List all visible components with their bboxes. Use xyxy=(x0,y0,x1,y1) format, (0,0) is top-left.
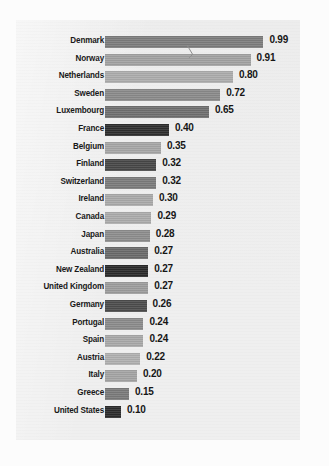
value-label: 0.27 xyxy=(154,263,173,275)
bar xyxy=(105,54,251,66)
chart-row: Italy0.20 xyxy=(16,370,300,382)
value-label: 0.22 xyxy=(146,351,165,363)
value-label: 0.10 xyxy=(127,404,146,416)
category-label: Canada xyxy=(0,210,104,222)
category-label: Greece xyxy=(0,386,104,398)
chart-row: France0.40 xyxy=(16,124,300,136)
category-label: Netherlands xyxy=(0,69,104,81)
chart-row: Portugal0.24 xyxy=(16,318,300,330)
bar xyxy=(105,36,263,48)
value-label: 0.20 xyxy=(143,368,162,380)
bar xyxy=(105,318,143,330)
category-label: New Zealand xyxy=(0,263,104,275)
value-label: 0.65 xyxy=(215,104,234,116)
value-label: 0.40 xyxy=(175,122,194,134)
category-label: Switzerland xyxy=(0,175,104,187)
bar xyxy=(105,71,233,83)
bar xyxy=(105,212,151,224)
bar xyxy=(105,194,153,206)
bar xyxy=(105,335,143,347)
value-label: 0.72 xyxy=(226,87,245,99)
category-label: Ireland xyxy=(0,192,104,204)
chart-row: Canada0.29 xyxy=(16,212,300,224)
bar xyxy=(105,106,209,118)
value-label: 0.29 xyxy=(157,210,176,222)
bar xyxy=(105,89,220,101)
chart-row: Ireland0.30 xyxy=(16,194,300,206)
value-label: 0.24 xyxy=(149,333,168,345)
value-label: 0.91 xyxy=(257,52,276,64)
value-label: 0.32 xyxy=(162,157,181,169)
category-label: Spain xyxy=(0,333,104,345)
bar xyxy=(105,124,169,136)
value-label: 0.28 xyxy=(156,228,175,240)
chart-row: New Zealand0.27 xyxy=(16,265,300,277)
bar xyxy=(105,282,148,294)
value-label: 0.32 xyxy=(162,175,181,187)
chart-row: Switzerland0.32 xyxy=(16,177,300,189)
category-label: Portugal xyxy=(0,316,104,328)
chart-row: Sweden0.72 xyxy=(16,89,300,101)
chart-row: United States0.10 xyxy=(16,406,300,418)
chart-row: Greece0.15 xyxy=(16,388,300,400)
category-label: Japan xyxy=(0,228,104,240)
bar xyxy=(105,388,129,400)
value-label: 0.27 xyxy=(154,245,173,257)
category-label: United Kingdom xyxy=(0,280,104,292)
chart-row: Denmark0.99 xyxy=(16,36,300,48)
bar xyxy=(105,300,147,312)
chart-row: Japan0.28 xyxy=(16,230,300,242)
category-label: Belgium xyxy=(0,140,104,152)
value-label: 0.80 xyxy=(239,69,258,81)
value-label: 0.27 xyxy=(154,280,173,292)
bar xyxy=(105,370,137,382)
horizontal-bar-chart: Denmark0.99Norway0.91Netherlands0.80Swed… xyxy=(16,20,300,440)
category-label: Luxembourg xyxy=(0,104,104,116)
chart-screenshot: Denmark0.99Norway0.91Netherlands0.80Swed… xyxy=(0,0,329,466)
bar xyxy=(105,142,161,154)
value-label: 0.30 xyxy=(159,192,178,204)
chart-row: Austria0.22 xyxy=(16,353,300,365)
category-label: Norway xyxy=(0,52,104,64)
value-label: 0.15 xyxy=(135,386,154,398)
chart-row: Netherlands0.80 xyxy=(16,71,300,83)
chart-row: United Kingdom0.27 xyxy=(16,282,300,294)
category-label: France xyxy=(0,122,104,134)
chart-row: Belgium0.35 xyxy=(16,142,300,154)
category-label: Austria xyxy=(0,351,104,363)
bar xyxy=(105,353,140,365)
chart-row: Germany0.26 xyxy=(16,300,300,312)
bar xyxy=(105,406,121,418)
chart-row: Luxembourg0.65 xyxy=(16,106,300,118)
category-label: United States xyxy=(0,404,104,416)
bar xyxy=(105,159,156,171)
category-label: Denmark xyxy=(0,34,104,46)
bar xyxy=(105,247,148,259)
category-label: Germany xyxy=(0,298,104,310)
category-label: Sweden xyxy=(0,87,104,99)
category-label: Australia xyxy=(0,245,104,257)
bar xyxy=(105,177,156,189)
value-label: 0.24 xyxy=(149,316,168,328)
bar xyxy=(105,265,148,277)
value-label: 0.99 xyxy=(269,34,288,46)
chart-row: Norway0.91 xyxy=(16,54,300,66)
category-label: Finland xyxy=(0,157,104,169)
bar xyxy=(105,230,150,242)
chart-row: Finland0.32 xyxy=(16,159,300,171)
value-label: 0.26 xyxy=(153,298,172,310)
value-label: 0.35 xyxy=(167,140,186,152)
chart-row: Spain0.24 xyxy=(16,335,300,347)
chart-row: Australia0.27 xyxy=(16,247,300,259)
category-label: Italy xyxy=(0,368,104,380)
